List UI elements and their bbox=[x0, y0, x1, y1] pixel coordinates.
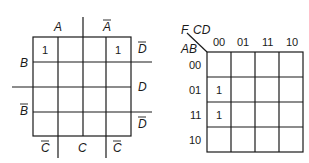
row-header-00: 00 bbox=[189, 59, 201, 71]
left-map-grid bbox=[12, 17, 152, 158]
label-c: C bbox=[78, 141, 87, 155]
label-d-bar-bottom: D bbox=[138, 117, 147, 131]
left-cell-0-3: 1 bbox=[115, 44, 121, 56]
left-cell-0-0: 1 bbox=[42, 44, 48, 56]
col-header-00: 00 bbox=[213, 36, 225, 48]
label-d: D bbox=[138, 80, 147, 94]
right-cell-1-0: 1 bbox=[216, 84, 222, 96]
label-b-bar: B bbox=[20, 104, 28, 118]
label-b: B bbox=[20, 56, 28, 70]
label-a: A bbox=[54, 20, 62, 34]
col-header-11: 11 bbox=[262, 36, 273, 48]
karnaugh-maps-diagram bbox=[0, 0, 309, 163]
row-header-01: 01 bbox=[189, 84, 201, 96]
label-c-bar-right: C bbox=[113, 141, 122, 155]
col-header-10: 10 bbox=[286, 36, 298, 48]
row-header-10: 10 bbox=[189, 134, 201, 146]
corner-cols-cd: CD bbox=[193, 23, 210, 37]
label-a-bar: A bbox=[103, 20, 111, 34]
label-d-bar-top: D bbox=[138, 42, 147, 56]
right-cell-2-0: 1 bbox=[216, 109, 222, 121]
corner-output-f: F bbox=[181, 23, 188, 37]
right-map-grid bbox=[187, 33, 303, 152]
row-header-11: 11 bbox=[190, 109, 201, 121]
col-header-01: 01 bbox=[237, 36, 249, 48]
corner-rows-ab: AB bbox=[181, 42, 197, 56]
label-c-bar-left: C bbox=[41, 141, 50, 155]
